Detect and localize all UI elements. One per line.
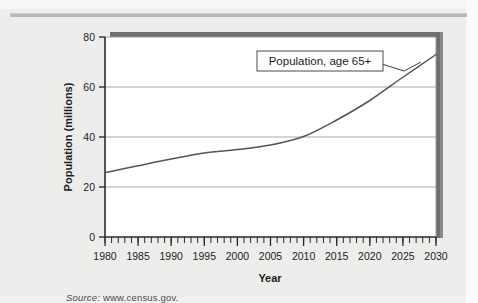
source-caption: Source: www.census.gov.: [66, 292, 179, 303]
x-tick-label: 1995: [193, 250, 217, 262]
horizontal-rule: [10, 13, 467, 17]
x-tick-label: 1985: [126, 250, 150, 262]
y-tick-label: 60: [83, 81, 95, 93]
x-tick-label: 1990: [160, 250, 184, 262]
page-edge-top: [0, 0, 478, 9]
x-tick-label: 2025: [391, 250, 415, 262]
annotation-callout: Population, age 65+: [257, 51, 383, 71]
y-axis-tick-labels: 80 60 40 20 0: [83, 31, 95, 243]
x-tick-label: 2015: [325, 250, 349, 262]
source-label: Source:: [66, 292, 100, 303]
x-tick-label: 2005: [259, 250, 283, 262]
x-tick-label: 2010: [292, 250, 316, 262]
x-tick-label: 2020: [358, 250, 382, 262]
line-chart: 80 60 40 20 0 Population (millions) 1980…: [0, 18, 478, 303]
source-value: www.census.gov.: [103, 292, 179, 303]
y-tick-label: 20: [83, 181, 95, 193]
x-axis-title: Year: [258, 272, 282, 284]
x-axis-tick-labels: 1980198519901995200020052010201520202025…: [93, 250, 448, 262]
y-tick-label: 80: [83, 31, 95, 43]
x-tick-label: 1980: [93, 250, 117, 262]
annotation-label: Population, age 65+: [269, 55, 372, 67]
x-axis-major-ticks: [105, 237, 436, 246]
y-axis-title: Population (millions): [62, 82, 74, 191]
scanned-page: 80 60 40 20 0 Population (millions) 1980…: [0, 0, 478, 303]
y-tick-label: 0: [89, 231, 95, 243]
y-tick-label: 40: [83, 131, 95, 143]
x-tick-label: 2030: [424, 250, 448, 262]
x-tick-label: 2000: [226, 250, 250, 262]
figure-population-age-65-plus: 80 60 40 20 0 Population (millions) 1980…: [0, 18, 478, 303]
y-axis-ticks: [99, 37, 105, 237]
